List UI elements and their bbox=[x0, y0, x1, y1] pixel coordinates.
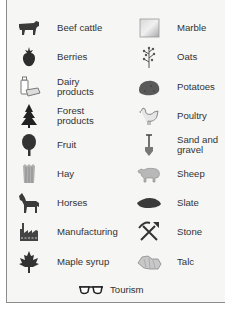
legend-item-hay: Hay bbox=[16, 161, 74, 187]
legend-item-beef-cattle: Beef cattle bbox=[16, 15, 102, 41]
legend-label: Stone bbox=[177, 227, 202, 237]
legend-item-berries: Berries bbox=[16, 44, 87, 70]
sunglasses-icon bbox=[78, 277, 104, 303]
legend-label: Slate bbox=[177, 198, 199, 208]
legend-label: Manufacturing bbox=[57, 227, 118, 237]
legend-item-fruit: Fruit bbox=[16, 132, 76, 158]
oats-icon bbox=[136, 44, 162, 70]
slate-icon bbox=[136, 190, 162, 216]
chicken-icon bbox=[136, 103, 162, 129]
legend-label: Hay bbox=[57, 169, 74, 179]
legend-item-slate: Slate bbox=[136, 190, 199, 216]
legend-item-marble: Marble bbox=[136, 15, 206, 41]
legend-item-forest-products: Forest products bbox=[16, 103, 94, 129]
potato-icon bbox=[136, 74, 162, 100]
legend-label: Marble bbox=[177, 23, 206, 33]
hay-icon bbox=[16, 161, 42, 187]
legend-item-sheep: Sheep bbox=[136, 161, 205, 187]
legend-item-potatoes: Potatoes bbox=[136, 74, 215, 100]
factory-icon bbox=[16, 219, 42, 245]
legend-label: Forest products bbox=[57, 106, 94, 126]
legend-label: Fruit bbox=[57, 140, 76, 150]
sheep-icon bbox=[136, 161, 162, 187]
legend-item-maple-syrup: Maple syrup bbox=[16, 249, 109, 275]
legend-label: Tourism bbox=[110, 285, 144, 295]
berry-icon bbox=[16, 44, 42, 70]
legend-item-horses: Horses bbox=[16, 190, 87, 216]
legend-label: Sand and gravel bbox=[177, 135, 218, 155]
cattle-icon bbox=[16, 15, 42, 41]
legend-label: Poultry bbox=[177, 111, 207, 121]
legend-label: Beef cattle bbox=[57, 23, 102, 33]
legend-item-poultry: Poultry bbox=[136, 103, 207, 129]
legend-label: Dairy products bbox=[57, 77, 94, 97]
legend-item-oats: Oats bbox=[136, 44, 197, 70]
legend-item-stone: Stone bbox=[136, 219, 202, 245]
tree-conifer-icon bbox=[16, 103, 42, 129]
fruit-tree-icon bbox=[16, 132, 42, 158]
talc-icon bbox=[136, 249, 162, 275]
legend-item-manufacturing: Manufacturing bbox=[16, 219, 118, 245]
shovel-icon bbox=[136, 132, 162, 158]
legend-label: Sheep bbox=[177, 169, 205, 179]
legend-label: Oats bbox=[177, 52, 197, 62]
legend-label: Berries bbox=[57, 52, 87, 62]
legend-label: Horses bbox=[57, 198, 87, 208]
legend-label: Maple syrup bbox=[57, 257, 109, 267]
legend-item-talc: Talc bbox=[136, 249, 194, 275]
horse-icon bbox=[16, 190, 42, 216]
legend-item-dairy-products: Dairy products bbox=[16, 74, 94, 100]
legend-label: Potatoes bbox=[177, 82, 215, 92]
marble-icon bbox=[136, 15, 162, 41]
maple-leaf-icon bbox=[16, 249, 42, 275]
legend-item-sand-and-gravel: Sand and gravel bbox=[136, 132, 218, 158]
dairy-icon bbox=[16, 74, 42, 100]
legend-item-tourism: Tourism bbox=[78, 277, 144, 303]
pickaxe-icon bbox=[136, 219, 162, 245]
legend-label: Talc bbox=[177, 257, 194, 267]
map-legend: Beef cattle Berries Dairy products Fores… bbox=[6, 0, 225, 303]
